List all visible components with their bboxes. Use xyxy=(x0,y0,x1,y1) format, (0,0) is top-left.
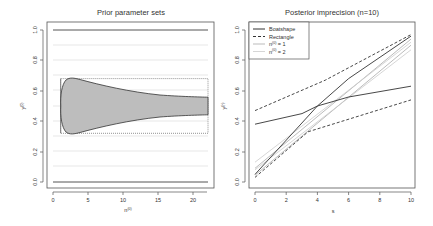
boatshape-prior-set xyxy=(61,78,208,134)
left-xtick: 20 xyxy=(190,197,196,203)
legend: Boatshape Rectangle n(0) = 1 n(0) = 2 xyxy=(249,22,309,59)
right-xtick: 6 xyxy=(347,197,350,203)
left-ytick: 1.0 xyxy=(32,26,38,34)
legend-label-n2: n(0) = 2 xyxy=(269,48,286,55)
right-ytick: 1.0 xyxy=(234,26,240,34)
left-panel: Prior parameter sets xyxy=(20,8,215,213)
right-panel: Posterior imprecision (n=10) Boatshape R… xyxy=(221,8,416,214)
left-ytick: 0.0 xyxy=(32,178,38,186)
right-ytick: 0.2 xyxy=(234,148,240,156)
right-ytick: 0.8 xyxy=(234,56,240,64)
left-xtick: 10 xyxy=(120,197,126,203)
left-x-axis xyxy=(53,192,207,195)
right-ytick: 0.6 xyxy=(234,87,240,95)
right-xtick: 8 xyxy=(378,197,381,203)
right-xtick: 2 xyxy=(285,197,288,203)
left-ytick: 0.2 xyxy=(32,148,38,156)
left-xtick: 5 xyxy=(86,197,89,203)
legend-label-rect: Rectangle xyxy=(269,34,294,40)
n0-2-lower xyxy=(255,50,411,170)
right-ytick: 0.0 xyxy=(234,178,240,186)
right-ylabel: y(n) xyxy=(221,102,228,109)
left-xtick: 15 xyxy=(155,197,161,203)
right-xlabel: s xyxy=(332,208,335,214)
right-y-axis xyxy=(242,30,245,182)
left-title: Prior parameter sets xyxy=(97,8,165,17)
right-xtick: 0 xyxy=(253,197,256,203)
right-x-axis xyxy=(255,192,411,195)
left-xlabel: n(0) xyxy=(124,207,131,214)
right-title: Posterior imprecision (n=10) xyxy=(285,8,379,17)
left-xtick: 0 xyxy=(51,197,54,203)
right-ytick: 0.4 xyxy=(234,117,240,125)
legend-label-boat: Boatshape xyxy=(269,26,295,32)
right-xtick: 4 xyxy=(316,197,319,203)
legend-label-n1: n(0) = 1 xyxy=(269,41,286,48)
left-ylabel: y(0) xyxy=(20,102,27,109)
left-ytick: 0.8 xyxy=(32,56,38,64)
rectangle-lower xyxy=(255,100,411,177)
figure: Prior parameter sets xyxy=(0,0,433,226)
left-ytick: 0.4 xyxy=(32,117,38,125)
right-xtick: 10 xyxy=(408,197,414,203)
n0-2-upper xyxy=(255,42,411,162)
left-y-axis xyxy=(40,30,43,182)
left-ytick: 0.6 xyxy=(32,87,38,95)
